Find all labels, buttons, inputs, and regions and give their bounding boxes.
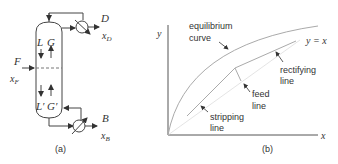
label-xD: xD [101,30,112,43]
distillation-figure: L G L′ G′ D xD F xF B xB (a) y x y = x e… [0,0,338,164]
caption-a: (a) [55,144,66,154]
svg-text:stripping: stripping [210,112,244,122]
feed-line [235,68,241,81]
y-axis-label: y [156,28,162,39]
label-xF: xF [9,73,19,86]
label-B: B [102,112,109,124]
svg-text:curve: curve [189,33,211,43]
label-F: F [13,55,21,67]
label-L: L [36,36,43,48]
label-Gprime: G′ [47,100,58,112]
caption-b: (b) [262,144,273,154]
label-G: G [47,36,55,48]
label-xB: xB [100,130,110,143]
svg-text:line: line [210,123,224,133]
svg-text:line: line [280,76,294,86]
x-axis-label: x [320,130,326,141]
label-D: D [100,12,109,24]
svg-text:equilibrium: equilibrium [189,21,233,31]
svg-text:rectifying: rectifying [280,65,316,75]
label-Lprime: L′ [35,100,45,112]
svg-text:line: line [252,101,266,111]
diag-label: y = x [305,35,327,46]
svg-text:feed: feed [252,89,270,99]
